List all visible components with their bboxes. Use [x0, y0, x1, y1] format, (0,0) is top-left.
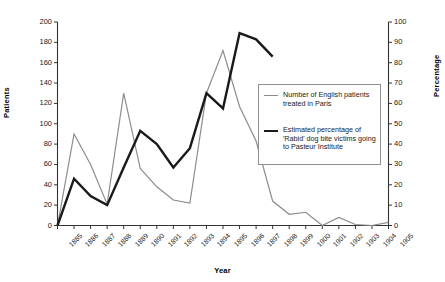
left-tick-label: 0	[26, 221, 52, 230]
bottom-axis-ticks	[58, 226, 389, 230]
right-tick-label: 10	[394, 200, 420, 209]
series-line-rabid-percentage	[58, 33, 273, 225]
legend-label: Estimated percentage of 'Rabid' dog bite…	[283, 126, 379, 152]
right-tick-label: 60	[394, 98, 420, 107]
left-tick-label: 20	[26, 200, 52, 209]
y-axis-label-left: Patients	[2, 87, 11, 118]
left-tick-label: 120	[26, 98, 52, 107]
legend-entry[interactable]: Estimated percentage of 'Rabid' dog bite…	[264, 126, 379, 152]
left-tick-label: 60	[26, 159, 52, 168]
right-tick-label: 20	[394, 180, 420, 189]
left-tick-label: 160	[26, 58, 52, 67]
y-axis-label-right: Percentage	[432, 55, 441, 97]
right-tick-label: 100	[394, 17, 420, 26]
right-tick-label: 80	[394, 58, 420, 67]
x-axis-label: Year	[0, 266, 445, 275]
right-tick-label: 0	[394, 221, 420, 230]
right-tick-label: 40	[394, 139, 420, 148]
left-tick-label: 180	[26, 37, 52, 46]
right-tick-label: 90	[394, 37, 420, 46]
left-tick-label: 40	[26, 180, 52, 189]
chart-legend: Number of English patients treated in Pa…	[258, 84, 381, 165]
legend-label: Number of English patients treated in Pa…	[283, 91, 379, 108]
right-tick-label: 70	[394, 78, 420, 87]
legend-line-swatch	[264, 95, 278, 96]
legend-line-swatch	[264, 130, 278, 132]
left-tick-label: 200	[26, 17, 52, 26]
left-tick-label: 140	[26, 78, 52, 87]
chart-figure: Patients Percentage Year 020406080100120…	[0, 0, 445, 282]
left-tick-label: 80	[26, 139, 52, 148]
left-tick-label: 100	[26, 119, 52, 128]
right-tick-label: 30	[394, 159, 420, 168]
legend-entry[interactable]: Number of English patients treated in Pa…	[264, 91, 379, 108]
right-tick-label: 50	[394, 119, 420, 128]
